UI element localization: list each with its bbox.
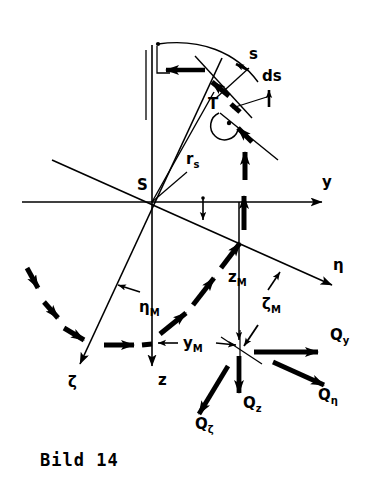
axis-label-z: z (158, 373, 167, 388)
axis-label-zeta: ζ (68, 375, 77, 390)
radius-line-rs (152, 92, 214, 202)
upper-arc-group (146, 42, 258, 120)
label-force-Qy: Qy (330, 328, 349, 346)
s-leader-line (216, 68, 249, 98)
origin-tick-dot (201, 196, 205, 200)
force-Qeta-arrow[interactable] (273, 362, 324, 385)
eta-axis-line (52, 160, 332, 285)
label-force-Qeta: Qη (318, 388, 338, 406)
label-Qzeta-sub: ζ (208, 424, 214, 435)
axis-label-y: y (322, 175, 332, 190)
zeta-M-arrow-to-M (244, 325, 258, 346)
figure-page: S T y z η ζ s ds rs ηM ζM yM zM Qy Qη Qz… (0, 0, 378, 504)
traj-seg-left-c (64, 328, 84, 340)
label-z-M-base: z (228, 268, 237, 286)
label-force-Qzeta: Qζ (195, 417, 214, 435)
label-Qeta-base: Q (318, 386, 331, 404)
label-Qeta-sub: η (331, 395, 338, 406)
label-Qy-sub: y (343, 335, 350, 346)
label-z-M-sub: M (237, 277, 247, 288)
label-Qy-base: Q (330, 326, 343, 344)
point-label-T: T (208, 97, 218, 112)
point-label-S: S (137, 178, 148, 193)
label-differential-ds: ds (262, 69, 282, 84)
traj-seg-top-c (238, 128, 252, 142)
arc-start-dot (156, 42, 160, 46)
figure-canvas (0, 0, 378, 504)
traj-seg-horiz-b (142, 344, 152, 345)
label-eta-M-sub: M (150, 307, 160, 318)
eta-M-dim-arrow (118, 285, 140, 292)
force-Qzeta-arrow[interactable] (199, 366, 228, 414)
traj-seg-diag-a (221, 243, 240, 268)
traj-seg-diag-c (160, 313, 186, 334)
label-radius-rs-sub: s (193, 159, 199, 170)
figure-caption: Bild 14 (40, 450, 119, 470)
radius-vector-group (152, 92, 214, 202)
right-angle-dot (227, 121, 231, 125)
traj-seg-left-b (44, 302, 58, 318)
traj-seg-left-a (27, 268, 38, 288)
label-coordinate-z-M: zM (228, 270, 247, 288)
zeta-axis-line (80, 58, 222, 364)
label-y-M-base: y (183, 334, 193, 352)
label-zeta-M-base: ζ (262, 295, 271, 313)
traj-seg-top-b (231, 104, 240, 112)
upper-arc-path (158, 43, 258, 82)
label-y-M-sub: M (193, 343, 203, 354)
label-coordinate-eta-M: ηM (139, 300, 160, 318)
label-eta-M-base: η (139, 298, 150, 316)
label-radius-rs: rs (186, 152, 199, 170)
traj-seg-diag-b (193, 278, 214, 305)
label-coordinate-zeta-M: ζM (262, 297, 281, 315)
label-force-Qz: Qz (243, 396, 262, 414)
label-Qz-sub: z (256, 403, 262, 414)
label-zeta-M-sub: M (271, 304, 281, 315)
label-arc-length-s: s (249, 47, 258, 62)
label-Qz-base: Q (243, 394, 256, 412)
radius-leader-rs (152, 172, 187, 202)
label-coordinate-y-M: yM (183, 336, 203, 354)
label-Qzeta-base: Q (195, 415, 208, 433)
axis-label-eta: η (333, 258, 344, 273)
zeta-M-dim-arrow (268, 272, 280, 290)
